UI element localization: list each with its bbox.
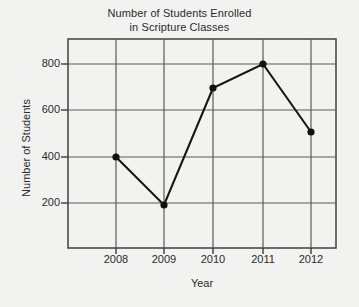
data-point-2010[interactable] <box>209 84 216 91</box>
data-point-2008[interactable] <box>112 153 119 160</box>
line-chart: Number of Students Enrolled in Scripture… <box>0 0 359 307</box>
plot-area <box>0 0 359 307</box>
vertical-gridlines <box>116 39 311 248</box>
plot-frame <box>68 39 336 248</box>
data-point-2009[interactable] <box>160 201 167 208</box>
horizontal-gridlines <box>68 64 336 203</box>
data-point-2012[interactable] <box>307 128 314 135</box>
data-point-2011[interactable] <box>259 60 266 67</box>
x-axis-ticks <box>116 248 311 254</box>
y-axis-ticks <box>61 64 68 203</box>
